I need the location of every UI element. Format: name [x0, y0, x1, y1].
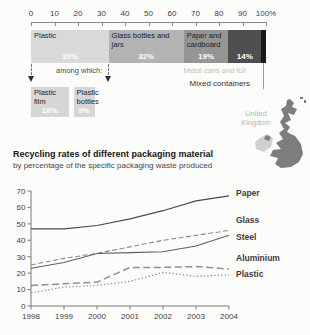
- bar-segment-metal-cans-and-foil: 14%: [228, 30, 261, 63]
- segment-name-label: Plastic: [34, 32, 108, 41]
- scale-tick-mark: [172, 22, 173, 26]
- series-line-aluminium: [31, 267, 229, 286]
- series-line-plastic: [31, 272, 229, 293]
- mixed-containers-label: Mixed containers: [190, 79, 250, 88]
- scale-tick-label: 100%: [256, 9, 276, 18]
- uk-map: [243, 96, 309, 180]
- series-label-glass: Glass: [236, 215, 259, 225]
- scale-tick-label: 10: [50, 9, 59, 18]
- breakdown-arrow-left: [31, 64, 32, 79]
- recycling-infographic: 0102030405060708090100% Plastic33%Glass …: [0, 0, 310, 335]
- scale-tick-label: 30: [97, 9, 106, 18]
- subbox-name-label: Plastic bottles: [77, 89, 94, 107]
- bar-segment-mixed-containers: [261, 30, 266, 63]
- subbox-plastic-bottles: Plastic bottles9%: [74, 87, 95, 117]
- ireland-shape: [255, 134, 273, 152]
- series-label-paper: Paper: [236, 188, 260, 198]
- metal-cans-label: Metal cans and foil: [183, 66, 246, 75]
- bar-segment-plastic: Plastic33%: [31, 30, 109, 63]
- subbox-name-label: Plastic film: [34, 89, 68, 107]
- series-label-aluminium: Aluminium: [236, 253, 280, 263]
- scale-tick-mark: [55, 22, 56, 26]
- scale-tick-mark: [125, 22, 126, 26]
- series-line-paper: [31, 196, 229, 229]
- x-tick-label: 2003: [187, 312, 205, 321]
- line-chart-svg: 0102030405060701998199920002001200220032…: [0, 183, 310, 335]
- line-chart-subtitle: by percentage of the specific packaging …: [13, 161, 212, 170]
- scale-tick-label: 50: [144, 9, 153, 18]
- scale-tick-mark: [102, 22, 103, 26]
- shetland-islands-shape: [300, 97, 303, 99]
- scale-tick-label: 90: [238, 9, 247, 18]
- scale-tick-label: 80: [215, 9, 224, 18]
- x-tick-label: 2001: [121, 312, 139, 321]
- y-tick-label: 20: [17, 269, 26, 278]
- y-tick-label: 50: [17, 220, 26, 229]
- y-tick-label: 40: [17, 236, 26, 245]
- bar-segment-glass-bottles-and-jars: Glass bottles and jars32%: [109, 30, 184, 63]
- among-which-caption: among which:: [56, 66, 102, 75]
- scale-tick-mark: [266, 22, 267, 26]
- scale-tick-label: 60: [168, 9, 177, 18]
- x-tick-label: 1998: [22, 312, 40, 321]
- series-label-plastic: Plastic: [236, 269, 264, 279]
- segment-percent-label: 33%: [31, 52, 109, 61]
- scale-tick-mark: [31, 22, 32, 26]
- stacked-bar: Plastic33%Glass bottles and jars32%Paper…: [31, 30, 266, 63]
- subbox-plastic-film: Plastic film16%: [31, 87, 69, 117]
- y-tick-label: 60: [17, 203, 26, 212]
- line-chart-title: Recycling rates of different packaging m…: [13, 149, 213, 159]
- series-label-steel: Steel: [236, 232, 256, 242]
- orkney-islands-shape: [304, 100, 306, 103]
- scale-tick-mark: [219, 22, 220, 26]
- scale-tick-mark: [243, 22, 244, 26]
- scale-tick-mark: [78, 22, 79, 26]
- subbox-percent-label: 16%: [31, 106, 69, 115]
- y-tick-label: 0: [21, 302, 26, 311]
- subbox-percent-label: 9%: [74, 106, 95, 115]
- series-line-glass: [31, 230, 229, 265]
- x-tick-label: 1999: [55, 312, 73, 321]
- segment-name-label: Glass bottles and jars: [112, 32, 183, 50]
- mixed-containers-pointer-line: [263, 63, 264, 89]
- segment-percent-label: 14%: [228, 52, 261, 61]
- x-tick-label: 2002: [154, 312, 172, 321]
- scale-tick-label: 40: [121, 9, 130, 18]
- y-tick-label: 30: [17, 253, 26, 262]
- scale-tick-mark: [149, 22, 150, 26]
- x-tick-label: 2000: [88, 312, 106, 321]
- bar-axis-scale: 0102030405060708090100%: [31, 8, 266, 23]
- scale-tick-mark: [196, 22, 197, 26]
- y-tick-label: 70: [17, 187, 26, 196]
- segment-name-label: Paper and cardboard: [187, 32, 228, 50]
- breakdown-arrow-right: [108, 64, 109, 79]
- bar-segment-paper-and-cardboard: Paper and cardboard19%: [184, 30, 229, 63]
- y-tick-label: 10: [17, 285, 26, 294]
- segment-percent-label: 32%: [109, 52, 184, 61]
- x-tick-label: 2004: [220, 312, 238, 321]
- series-line-steel: [31, 235, 229, 268]
- scale-tick-label: 0: [29, 9, 33, 18]
- scale-tick-label: 70: [191, 9, 200, 18]
- scale-tick-label: 20: [74, 9, 83, 18]
- great-britain-shape: [270, 99, 303, 168]
- segment-percent-label: 19%: [184, 52, 229, 61]
